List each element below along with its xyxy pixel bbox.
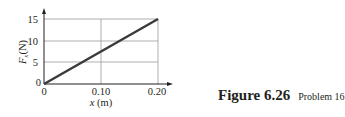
y-tick-0: 0 [36,77,41,88]
y-axis-arrow-icon [42,8,46,14]
force-displacement-chart: 15 10 5 0 0 0.10 0.20 x (m) Fx(N) [0,0,210,117]
x-tick-0.20: 0.20 [148,86,166,97]
x-axis-label: x (m) [89,97,113,109]
y-tick-5: 5 [33,57,38,68]
problem-reference: Problem 16 [298,91,344,102]
figure-caption: Figure 6.26 Problem 16 [218,86,345,104]
x-tick-0: 0 [41,86,46,97]
y-tick-15: 15 [28,14,39,25]
y-tick-10: 10 [28,36,39,47]
figure-number: Figure 6.26 [218,87,290,103]
x-tick-0.10: 0.10 [92,86,110,97]
x-axis-arrow-icon [167,82,173,86]
